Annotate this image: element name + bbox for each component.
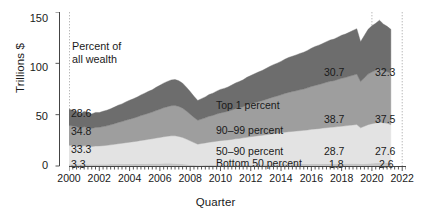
pct-2022-top1: 32.3	[375, 66, 395, 78]
series-label-90-99: 90–99 percent	[216, 124, 283, 136]
pct-2020-90-99: 38.7	[324, 113, 344, 125]
x-tick-2008: 2008	[178, 172, 201, 184]
header-note-line-2: all wealth	[72, 53, 121, 66]
y-tick-0: 0	[14, 160, 48, 171]
x-tick-2000: 2000	[57, 172, 80, 184]
x-tick-2006: 2006	[148, 172, 171, 184]
pct-2022-50-90: 27.6	[375, 145, 395, 157]
pct-2000-50-90: 33.3	[71, 143, 91, 155]
y-tick-100: 100	[14, 62, 48, 73]
pct-2000-top1: 28.6	[71, 107, 91, 119]
x-tick-2022: 2022	[391, 172, 414, 184]
stacked-area-svg	[69, 12, 406, 166]
pct-2000-90-99: 34.8	[71, 125, 91, 137]
y-axis-ticks: 150 100 50 0	[14, 0, 48, 218]
wealth-distribution-chart: Trillions $ 150 100 50 0 Percent of all …	[0, 0, 431, 218]
x-tick-2012: 2012	[239, 172, 262, 184]
series-label-top1: Top 1 percent	[216, 99, 280, 111]
x-tick-2018: 2018	[330, 172, 353, 184]
series-label-50-90: 50–90 percent	[216, 145, 283, 157]
y-tick-50: 50	[14, 111, 48, 122]
x-axis-ticks: 2000200220042006200820102012201420162018…	[69, 172, 406, 188]
x-axis-title: Quarter	[0, 196, 431, 208]
y-tick-150: 150	[14, 13, 48, 24]
x-tick-2004: 2004	[118, 172, 141, 184]
header-note-line-1: Percent of	[72, 40, 121, 53]
y-axis-line	[52, 12, 60, 172]
x-tick-2016: 2016	[300, 172, 323, 184]
pct-2020-top1: 30.7	[324, 66, 344, 78]
header-note: Percent of all wealth	[72, 40, 121, 66]
x-tick-2014: 2014	[269, 172, 292, 184]
pct-2020-50-90: 28.7	[324, 145, 344, 157]
x-tick-2020: 2020	[360, 172, 383, 184]
x-tick-2010: 2010	[209, 172, 232, 184]
x-tick-2002: 2002	[88, 172, 111, 184]
pct-2022-90-99: 37.5	[375, 113, 395, 125]
plot-area	[69, 12, 406, 166]
